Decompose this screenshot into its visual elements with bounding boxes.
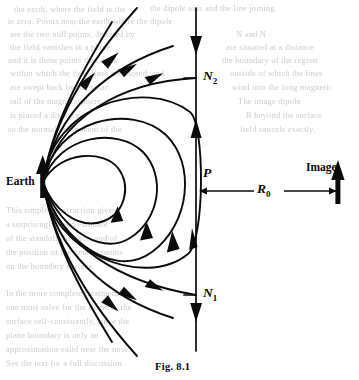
figure-caption: Fig. 8.1 — [155, 361, 190, 372]
closed-loop-2 — [43, 138, 157, 244]
boundary-arrow-bottom-down — [190, 303, 202, 322]
earth-label: Earth — [6, 175, 35, 187]
boundary-arrow-top-down — [190, 36, 202, 55]
neutral-point-upper-subscript: 2 — [213, 76, 218, 86]
boundary-arrow-mid-up — [191, 119, 202, 138]
neutral-point-lower-subscript: 1 — [213, 293, 218, 303]
closed-loop-flow-arrows — [111, 206, 198, 252]
distance-subscript: 0 — [266, 189, 271, 199]
neutral-point-upper-letter: N — [203, 68, 213, 83]
image-label: Image — [306, 161, 337, 173]
point-p-label: P — [203, 165, 211, 181]
distance-letter: R — [257, 181, 266, 196]
neutral-point-upper-label: N2 — [203, 68, 217, 86]
distance-label: R0 — [257, 181, 271, 199]
open-field-arrows-lower — [101, 279, 163, 311]
neutral-point-lower-letter: N — [203, 285, 213, 300]
field-line-diagram — [0, 0, 359, 380]
open-field-lines-upper — [43, 8, 196, 182]
figure-container: the earth, where the field is thethe dip… — [0, 0, 359, 380]
open-line-l1 — [43, 182, 137, 356]
neutral-point-lower-label: N1 — [203, 285, 217, 303]
